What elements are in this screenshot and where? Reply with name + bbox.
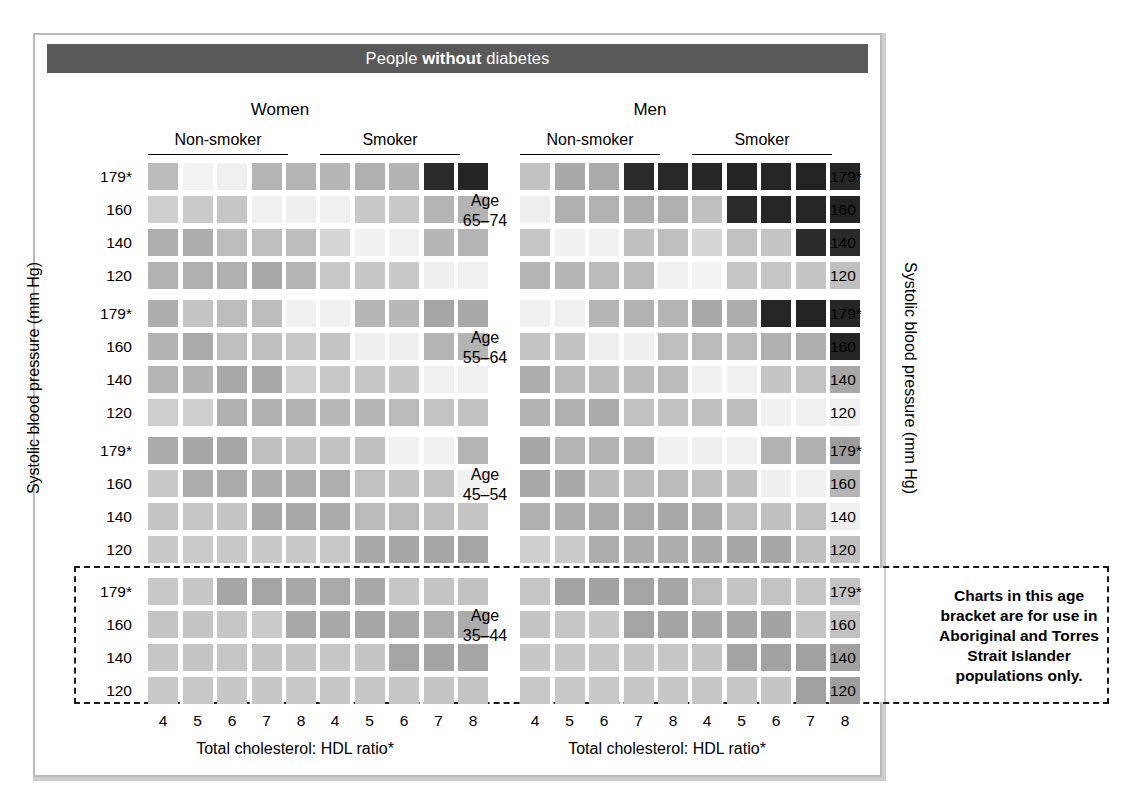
risk-cell-sbp-160-ratio-6[interactable] [589, 470, 619, 497]
risk-cell-sbp-140-ratio-6[interactable] [761, 366, 791, 393]
risk-cell-sbp-120-ratio-5[interactable] [355, 399, 385, 426]
risk-cell-sbp-179-ratio-6[interactable] [589, 437, 619, 464]
risk-cell-sbp-120-ratio-7[interactable] [796, 677, 826, 704]
risk-cell-sbp-140-ratio-5[interactable] [727, 503, 757, 530]
risk-cell-sbp-120-ratio-5[interactable] [555, 399, 585, 426]
risk-cell-sbp-120-ratio-6[interactable] [589, 536, 619, 563]
risk-cell-sbp-120-ratio-4[interactable] [520, 262, 550, 289]
risk-cell-sbp-179-ratio-8[interactable] [286, 163, 316, 190]
risk-cell-sbp-120-ratio-4[interactable] [148, 677, 178, 704]
risk-cell-sbp-179-ratio-5[interactable] [183, 437, 213, 464]
risk-cell-sbp-140-ratio-5[interactable] [183, 503, 213, 530]
risk-cell-sbp-140-ratio-6[interactable] [761, 229, 791, 256]
risk-cell-sbp-120-ratio-8[interactable] [658, 262, 688, 289]
risk-cell-sbp-120-ratio-7[interactable] [624, 536, 654, 563]
risk-cell-sbp-179-ratio-5[interactable] [555, 300, 585, 327]
risk-cell-sbp-160-ratio-5[interactable] [555, 333, 585, 360]
risk-cell-sbp-120-ratio-5[interactable] [355, 677, 385, 704]
risk-cell-sbp-140-ratio-5[interactable] [355, 229, 385, 256]
risk-cell-sbp-120-ratio-5[interactable] [555, 536, 585, 563]
risk-cell-sbp-160-ratio-8[interactable] [658, 333, 688, 360]
risk-cell-sbp-140-ratio-4[interactable] [520, 503, 550, 530]
risk-cell-sbp-140-ratio-4[interactable] [692, 366, 722, 393]
risk-cell-sbp-179-ratio-5[interactable] [355, 578, 385, 605]
risk-cell-sbp-179-ratio-5[interactable] [727, 300, 757, 327]
risk-cell-sbp-120-ratio-7[interactable] [424, 262, 454, 289]
risk-cell-sbp-160-ratio-4[interactable] [320, 470, 350, 497]
risk-cell-sbp-179-ratio-5[interactable] [183, 578, 213, 605]
risk-cell-sbp-160-ratio-5[interactable] [355, 470, 385, 497]
risk-cell-sbp-120-ratio-5[interactable] [727, 399, 757, 426]
risk-cell-sbp-179-ratio-7[interactable] [796, 163, 826, 190]
risk-cell-sbp-160-ratio-8[interactable] [286, 196, 316, 223]
risk-cell-sbp-140-ratio-6[interactable] [589, 366, 619, 393]
risk-cell-sbp-179-ratio-7[interactable] [252, 437, 282, 464]
risk-cell-sbp-140-ratio-4[interactable] [320, 503, 350, 530]
risk-cell-sbp-179-ratio-8[interactable] [658, 163, 688, 190]
risk-cell-sbp-160-ratio-4[interactable] [692, 611, 722, 638]
risk-cell-sbp-160-ratio-8[interactable] [286, 611, 316, 638]
risk-cell-sbp-140-ratio-6[interactable] [589, 503, 619, 530]
risk-cell-sbp-160-ratio-4[interactable] [692, 470, 722, 497]
risk-cell-sbp-160-ratio-7[interactable] [624, 470, 654, 497]
risk-cell-sbp-140-ratio-4[interactable] [148, 229, 178, 256]
risk-cell-sbp-140-ratio-4[interactable] [692, 229, 722, 256]
risk-cell-sbp-140-ratio-5[interactable] [555, 366, 585, 393]
risk-cell-sbp-179-ratio-8[interactable] [458, 578, 488, 605]
risk-cell-sbp-160-ratio-4[interactable] [320, 196, 350, 223]
risk-cell-sbp-120-ratio-4[interactable] [692, 262, 722, 289]
risk-cell-sbp-140-ratio-7[interactable] [796, 229, 826, 256]
risk-cell-sbp-160-ratio-5[interactable] [183, 196, 213, 223]
risk-cell-sbp-140-ratio-6[interactable] [389, 229, 419, 256]
risk-cell-sbp-160-ratio-5[interactable] [183, 333, 213, 360]
risk-cell-sbp-120-ratio-8[interactable] [658, 399, 688, 426]
risk-cell-sbp-160-ratio-7[interactable] [796, 196, 826, 223]
risk-cell-sbp-179-ratio-7[interactable] [796, 578, 826, 605]
risk-cell-sbp-120-ratio-4[interactable] [148, 262, 178, 289]
risk-cell-sbp-120-ratio-4[interactable] [148, 399, 178, 426]
risk-cell-sbp-120-ratio-7[interactable] [252, 677, 282, 704]
risk-cell-sbp-179-ratio-5[interactable] [355, 437, 385, 464]
risk-cell-sbp-160-ratio-4[interactable] [692, 196, 722, 223]
risk-cell-sbp-160-ratio-7[interactable] [252, 470, 282, 497]
risk-cell-sbp-140-ratio-7[interactable] [624, 366, 654, 393]
risk-cell-sbp-140-ratio-6[interactable] [761, 644, 791, 671]
risk-cell-sbp-120-ratio-5[interactable] [183, 677, 213, 704]
risk-cell-sbp-120-ratio-5[interactable] [355, 536, 385, 563]
risk-cell-sbp-120-ratio-5[interactable] [727, 262, 757, 289]
risk-cell-sbp-120-ratio-4[interactable] [692, 399, 722, 426]
risk-cell-sbp-140-ratio-5[interactable] [355, 366, 385, 393]
risk-cell-sbp-140-ratio-7[interactable] [624, 229, 654, 256]
risk-cell-sbp-140-ratio-4[interactable] [320, 644, 350, 671]
risk-cell-sbp-179-ratio-7[interactable] [252, 578, 282, 605]
risk-cell-sbp-179-ratio-6[interactable] [217, 578, 247, 605]
risk-cell-sbp-140-ratio-8[interactable] [658, 229, 688, 256]
risk-cell-sbp-179-ratio-6[interactable] [761, 437, 791, 464]
risk-cell-sbp-179-ratio-7[interactable] [796, 437, 826, 464]
risk-cell-sbp-120-ratio-5[interactable] [727, 536, 757, 563]
risk-cell-sbp-179-ratio-4[interactable] [148, 437, 178, 464]
risk-cell-sbp-140-ratio-8[interactable] [458, 503, 488, 530]
risk-cell-sbp-179-ratio-6[interactable] [389, 163, 419, 190]
risk-cell-sbp-179-ratio-4[interactable] [520, 163, 550, 190]
risk-cell-sbp-120-ratio-5[interactable] [555, 262, 585, 289]
risk-cell-sbp-160-ratio-6[interactable] [761, 333, 791, 360]
risk-cell-sbp-160-ratio-4[interactable] [320, 333, 350, 360]
risk-cell-sbp-120-ratio-6[interactable] [389, 536, 419, 563]
risk-cell-sbp-120-ratio-5[interactable] [727, 677, 757, 704]
risk-cell-sbp-140-ratio-8[interactable] [458, 366, 488, 393]
risk-cell-sbp-160-ratio-5[interactable] [727, 196, 757, 223]
risk-cell-sbp-179-ratio-8[interactable] [658, 437, 688, 464]
risk-cell-sbp-120-ratio-7[interactable] [252, 399, 282, 426]
risk-cell-sbp-160-ratio-6[interactable] [389, 333, 419, 360]
risk-cell-sbp-179-ratio-5[interactable] [727, 437, 757, 464]
risk-cell-sbp-179-ratio-7[interactable] [424, 578, 454, 605]
risk-cell-sbp-140-ratio-7[interactable] [424, 366, 454, 393]
risk-cell-sbp-179-ratio-4[interactable] [148, 300, 178, 327]
risk-cell-sbp-140-ratio-6[interactable] [389, 503, 419, 530]
risk-cell-sbp-120-ratio-6[interactable] [761, 262, 791, 289]
risk-cell-sbp-179-ratio-8[interactable] [658, 300, 688, 327]
risk-cell-sbp-160-ratio-7[interactable] [624, 196, 654, 223]
risk-cell-sbp-160-ratio-6[interactable] [217, 196, 247, 223]
risk-cell-sbp-140-ratio-6[interactable] [217, 644, 247, 671]
